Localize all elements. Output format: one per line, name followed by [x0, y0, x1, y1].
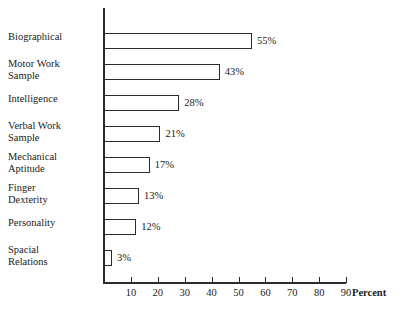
x-tick-label: 70: [280, 287, 304, 299]
bar-value-label: 17%: [155, 158, 174, 171]
x-tick-label: 20: [146, 287, 170, 299]
bar-row: FingerDexterity13%: [0, 186, 409, 217]
bar: [104, 64, 220, 80]
bar: [104, 95, 179, 111]
bar: [104, 250, 112, 266]
x-tick-label: 40: [200, 287, 224, 299]
bar-value-label: 21%: [165, 127, 184, 140]
x-axis-line: [103, 282, 346, 284]
bar: [104, 219, 136, 235]
bar: [104, 188, 139, 204]
bar-value-label: 28%: [184, 96, 203, 109]
bar-value-label: 12%: [141, 220, 160, 233]
category-label: MechanicalAptitude: [8, 151, 100, 175]
category-label: SpacialRelations: [8, 244, 100, 268]
bar: [104, 157, 150, 173]
x-tick-label: 60: [253, 287, 277, 299]
bar-value-label: 3%: [117, 251, 131, 264]
x-tick-label: 50: [227, 287, 251, 299]
category-label: FingerDexterity: [8, 182, 100, 206]
category-label: Personality: [8, 217, 100, 229]
bar-chart: 102030405060708090 Percent Biographical5…: [0, 0, 409, 311]
category-label: Verbal WorkSample: [8, 120, 100, 144]
bar: [104, 33, 252, 49]
category-label-line2: Relations: [8, 256, 100, 268]
category-label: Biographical: [8, 31, 100, 43]
bar-value-label: 43%: [225, 65, 244, 78]
category-label-line2: Aptitude: [8, 163, 100, 175]
category-label: Intelligence: [8, 93, 100, 105]
bar-value-label: 13%: [144, 189, 163, 202]
category-label-line2: Dexterity: [8, 194, 100, 206]
category-label: Motor WorkSample: [8, 58, 100, 82]
category-label-line2: Sample: [8, 70, 100, 82]
bar-row: Motor WorkSample43%: [0, 62, 409, 93]
x-tick-label: 30: [173, 287, 197, 299]
bar-row: SpacialRelations3%: [0, 248, 409, 279]
x-tick-label: 10: [119, 287, 143, 299]
bar-value-label: 55%: [257, 34, 276, 47]
category-label-line2: Sample: [8, 132, 100, 144]
bar: [104, 126, 160, 142]
x-axis-title: Percent: [352, 287, 386, 299]
x-tick-label: 80: [307, 287, 331, 299]
